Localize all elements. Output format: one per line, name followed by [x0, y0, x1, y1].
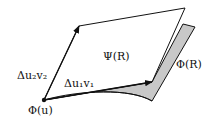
label-du2-v2: Δu₂v₂: [17, 69, 47, 82]
surface-diagram: Ψ(R) Φ(R) Φ(u) Δu₂v₂ Δu₁v₁: [0, 0, 219, 130]
label-phi-r: Φ(R): [176, 58, 202, 71]
label-psi-r: Ψ(R): [103, 50, 130, 63]
label-du1-v1: Δu₁v₁: [64, 77, 94, 90]
label-phi-u: Φ(u): [28, 104, 53, 117]
base-point-dot: [42, 98, 46, 102]
